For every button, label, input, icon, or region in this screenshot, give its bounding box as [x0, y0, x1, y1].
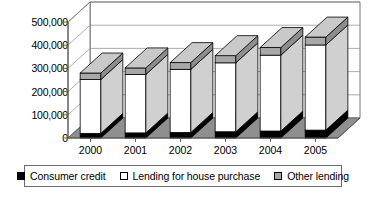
chart-plot-area: 500,000400,000300,000200,000100,0000 200… [0, 0, 369, 158]
segment-consumer-credit [260, 131, 281, 138]
gray-square-icon [274, 172, 282, 180]
segment-other-lending [125, 68, 146, 74]
segment-house-purchase [260, 55, 281, 131]
segment-consumer-credit [170, 132, 191, 138]
segment-consumer-credit [125, 133, 146, 138]
white-square-icon [120, 172, 128, 180]
legend-label-house-purchase: Lending for house purchase [133, 170, 261, 182]
legend-item-other-lending: Other lending [274, 170, 349, 182]
segment-consumer-credit [305, 130, 326, 138]
black-square-icon [17, 172, 25, 180]
segment-house-purchase [170, 69, 191, 132]
segment-house-purchase [215, 63, 236, 132]
segment-other-lending [260, 48, 281, 56]
segment-house-purchase [125, 74, 146, 132]
x-axis-tick-label-2003: 2003 [204, 144, 248, 156]
legend-label-consumer-credit: Consumer credit [30, 170, 106, 182]
bar-2002 [170, 43, 213, 138]
legend-label-other-lending: Other lending [287, 170, 349, 182]
segment-other-lending [80, 73, 101, 79]
bar-2005 [305, 17, 348, 138]
chart-screenshot: 500,000400,000300,000200,000100,0000 200… [0, 0, 369, 199]
x-axis-tick-label-2005: 2005 [294, 144, 338, 156]
x-axis-tick-label-2002: 2002 [159, 144, 203, 156]
3d-stacked-bar-chart [0, 0, 369, 158]
bar-2004 [260, 28, 303, 138]
segment-consumer-credit [215, 132, 236, 138]
segment-other-lending [215, 56, 236, 63]
x-axis-tick-label-2001: 2001 [114, 144, 158, 156]
legend-item-consumer-credit: Consumer credit [17, 170, 106, 182]
segment-house-purchase [305, 45, 326, 130]
segment-consumer-credit [80, 133, 101, 138]
x-axis-tick-label-2000: 2000 [69, 144, 113, 156]
x-axis-tick-label-2004: 2004 [249, 144, 293, 156]
legend-item-house-purchase: Lending for house purchase [120, 170, 261, 182]
segment-other-lending [170, 63, 191, 70]
segment-other-lending [305, 37, 326, 45]
segment-house-purchase [80, 80, 101, 134]
bar-2003 [215, 36, 258, 138]
chart-legend: Consumer credit Lending for house purcha… [24, 165, 342, 187]
